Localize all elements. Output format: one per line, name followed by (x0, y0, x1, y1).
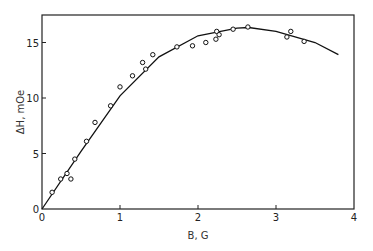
data-point (93, 120, 97, 124)
data-point (214, 37, 218, 41)
x-tick-label: 0 (39, 212, 45, 223)
x-axis-label: B, G (188, 230, 209, 241)
data-point (69, 177, 73, 181)
data-point (231, 27, 235, 31)
data-point (84, 139, 88, 143)
data-point (59, 177, 63, 181)
y-axis-ticks: 051015 (26, 38, 46, 216)
fit-curve (42, 28, 338, 210)
data-point (50, 190, 54, 194)
x-tick-label: 4 (351, 212, 357, 223)
data-point (130, 74, 134, 78)
data-point (73, 157, 77, 161)
y-tick-label: 5 (33, 149, 39, 160)
y-tick-label: 0 (33, 204, 39, 215)
data-points (50, 25, 306, 195)
y-axis-label: ΔH, mOe (15, 90, 26, 134)
data-point (204, 40, 208, 44)
data-point (285, 35, 289, 39)
data-point (217, 33, 221, 37)
chart: 01234 051015 B, G ΔH, mOe (0, 0, 373, 251)
x-axis-ticks: 01234 (39, 205, 357, 223)
y-tick-label: 15 (26, 38, 39, 49)
data-point (246, 25, 250, 29)
data-point (302, 39, 306, 43)
data-point (144, 67, 148, 71)
data-point (289, 29, 293, 33)
data-point (118, 85, 122, 89)
x-tick-label: 2 (195, 212, 201, 223)
x-tick-label: 1 (117, 212, 123, 223)
y-tick-label: 10 (26, 93, 39, 104)
data-point (175, 45, 179, 49)
data-point (140, 60, 144, 64)
x-tick-label: 3 (273, 212, 279, 223)
data-point (65, 171, 69, 175)
data-point (108, 104, 112, 108)
data-point (151, 53, 155, 57)
data-point (190, 44, 194, 48)
plot-frame (42, 15, 354, 209)
